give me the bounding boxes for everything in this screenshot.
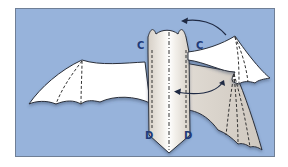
bat-folding-diagram: C C D D (0, 0, 288, 167)
label-d-left: D (145, 130, 153, 141)
label-d-right: D (184, 130, 192, 141)
label-c-right: C (196, 40, 203, 51)
label-c-left: C (137, 40, 144, 51)
